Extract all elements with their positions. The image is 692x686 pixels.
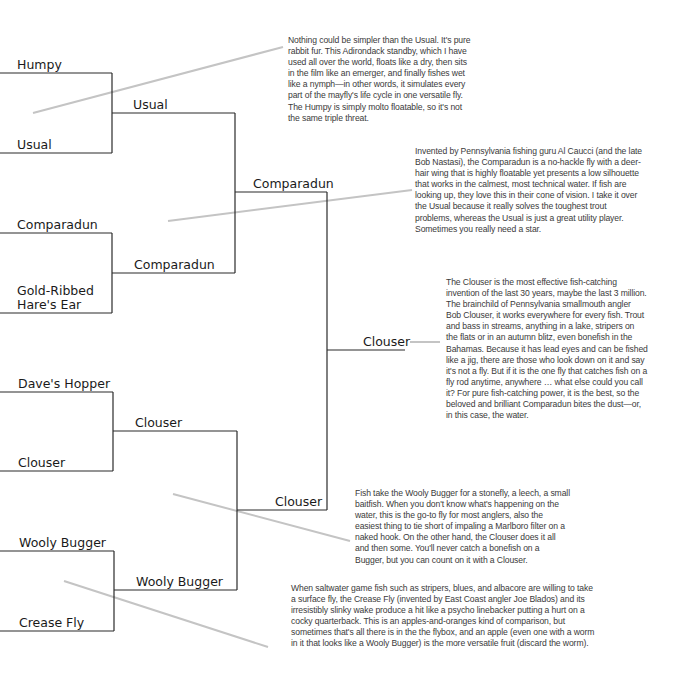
commentary-clouser: Fish take the Wooly Bugger for a stonefl… (355, 488, 570, 566)
commentary-comparadun: Invented by Pennsylvania fishing guru Al… (415, 146, 645, 235)
r1-label-humpy: Humpy (17, 58, 62, 72)
r1-label-crease-fly: Crease Fly (19, 616, 84, 630)
r2-label-usual: Usual (133, 98, 168, 112)
fly-bracket-diagram: Humpy Usual Comparadun Gold-Ribbed Hare'… (0, 0, 692, 686)
r1-label-clouser: Clouser (18, 456, 65, 470)
connector-wooly-bugger (64, 581, 268, 647)
r2-label-comparadun: Comparadun (134, 258, 215, 272)
r1-label-gold-ribbed-hares-ear: Gold-Ribbed Hare's Ear (17, 284, 109, 312)
r1-label-daves-hopper: Dave's Hopper (18, 377, 110, 391)
connector-clouser (173, 494, 350, 541)
r1-label-usual: Usual (17, 138, 52, 152)
commentary-usual: Nothing could be simpler than the Usual.… (288, 35, 473, 124)
final-label-clouser: Clouser (363, 335, 410, 349)
r3-label-clouser: Clouser (275, 495, 322, 509)
r3-label-comparadun: Comparadun (253, 177, 334, 191)
r1-label-comparadun: Comparadun (17, 218, 98, 232)
commentary-clouser-final: The Clouser is the most effective fish-c… (446, 277, 648, 421)
commentary-wooly-bugger: When saltwater game fish such as striper… (291, 583, 596, 650)
r2-label-wooly-bugger: Wooly Bugger (136, 575, 223, 589)
connector-comparadun (168, 190, 412, 221)
r2-label-clouser: Clouser (135, 416, 182, 430)
r1-label-wooly-bugger: Wooly Bugger (19, 536, 106, 550)
